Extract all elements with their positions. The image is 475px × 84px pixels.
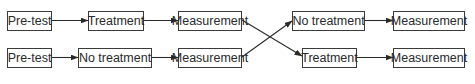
- row2-measurement-label-2: Measurement: [391, 52, 467, 65]
- row2-treatment-box: Treatment: [302, 48, 357, 68]
- crossover-design-diagram: Pre-test Treatment Measurement No treatm…: [0, 0, 475, 84]
- arrow-crossover-r2-to-r1: [242, 21, 292, 57]
- row1-pretest-label: Pre-test: [8, 15, 52, 28]
- row1-no-treatment-label: No treatment: [292, 15, 364, 28]
- row2-no-treatment-label: No treatment: [79, 52, 151, 65]
- row1-pretest-box: Pre-test: [7, 11, 52, 31]
- row1-treatment-label: Treatment: [88, 15, 145, 28]
- row2-no-treatment-box: No treatment: [78, 48, 152, 68]
- row2-treatment-label: Treatment: [301, 52, 358, 65]
- row2-measurement-label-1: Measurement: [172, 52, 248, 65]
- row1-measurement-label-1: Measurement: [172, 15, 248, 28]
- row1-measurement-box-1: Measurement: [178, 11, 242, 31]
- row2-measurement-box-2: Measurement: [393, 48, 465, 68]
- row2-pretest-label: Pre-test: [8, 52, 52, 65]
- row2-pretest-box: Pre-test: [7, 48, 52, 68]
- row1-measurement-box-2: Measurement: [393, 11, 465, 31]
- row1-treatment-box: Treatment: [88, 11, 144, 31]
- row1-no-treatment-box: No treatment: [292, 11, 365, 31]
- row1-measurement-label-2: Measurement: [391, 15, 467, 28]
- row2-measurement-box-1: Measurement: [178, 48, 242, 68]
